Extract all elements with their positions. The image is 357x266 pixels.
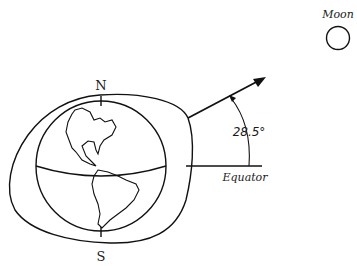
north-label: N xyxy=(95,78,106,93)
earth-globe xyxy=(36,101,166,231)
arrowhead-icon xyxy=(253,77,266,87)
angle-label: 28.5° xyxy=(233,125,266,139)
south-label: S xyxy=(97,249,106,264)
south-america-shape xyxy=(92,170,139,228)
moon-label: Moon xyxy=(321,8,354,21)
equator-label: Equator xyxy=(221,171,268,184)
orbit-plane-arrow xyxy=(188,79,262,118)
earth-orbit-inclination-diagram: Moon N S Equator 28.5° xyxy=(0,0,357,266)
north-america-shape xyxy=(66,108,116,166)
arc-arrowhead-icon xyxy=(229,95,236,102)
moon-icon xyxy=(327,27,350,50)
orbit-outline xyxy=(9,94,192,243)
